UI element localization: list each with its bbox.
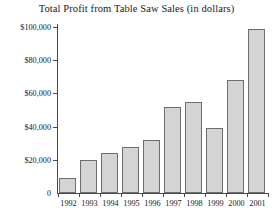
y-axis-tick-label: $80,000	[24, 56, 51, 65]
bar-1998	[185, 102, 202, 193]
x-axis-tick-mark	[58, 193, 59, 197]
x-axis-tick-label: 2001	[249, 199, 265, 208]
x-axis-tick-label: 1998	[186, 199, 202, 208]
x-axis-tick-mark	[100, 193, 101, 197]
bar-1994	[101, 153, 118, 193]
bar-1995	[122, 147, 139, 193]
y-axis-tick-mark	[53, 60, 58, 61]
x-axis-tick-label: 1994	[102, 199, 118, 208]
x-axis-tick-label: 2000	[228, 199, 244, 208]
bar-1992	[59, 178, 76, 193]
x-axis-tick-label: 1993	[81, 199, 97, 208]
plot-area	[57, 20, 268, 193]
bar-1993	[80, 160, 97, 193]
y-axis-tick-label: 0	[47, 189, 51, 198]
x-axis-tick-label: 1997	[165, 199, 181, 208]
y-axis-tick-label: $100,000	[20, 23, 51, 32]
y-axis-tick-mark	[53, 93, 58, 94]
bar-chart: Total Profit from Table Saw Sales (in do…	[0, 0, 273, 224]
x-axis-tick-label: 1996	[144, 199, 160, 208]
bar-2001	[248, 29, 265, 193]
y-axis-tick-mark	[53, 160, 58, 161]
bar-1997	[164, 107, 181, 193]
y-axis-tick-mark	[53, 127, 58, 128]
y-axis-tick-mark	[53, 27, 58, 28]
x-axis-tick-label: 1995	[123, 199, 139, 208]
bar-2000	[227, 80, 244, 193]
x-axis-tick-mark	[121, 193, 122, 197]
x-axis-tick-mark	[163, 193, 164, 197]
x-axis-tick-mark	[247, 193, 248, 197]
x-axis-tick-mark	[226, 193, 227, 197]
x-axis-tick-label: 1999	[207, 199, 223, 208]
y-axis-tick-label: $60,000	[24, 89, 51, 98]
y-axis-tick-label: $40,000	[24, 122, 51, 131]
x-axis-tick-mark	[142, 193, 143, 197]
bar-1996	[143, 140, 160, 193]
x-axis-tick-mark	[184, 193, 185, 197]
bar-1999	[206, 128, 223, 193]
x-axis-tick-mark	[205, 193, 206, 197]
x-axis-tick-mark	[268, 193, 269, 197]
x-axis-tick-label: 1992	[60, 199, 76, 208]
y-axis-labels: 0$20,000$40,000$60,000$80,000$100,000	[0, 0, 51, 224]
y-axis-tick-label: $20,000	[24, 155, 51, 164]
x-axis-tick-mark	[79, 193, 80, 197]
